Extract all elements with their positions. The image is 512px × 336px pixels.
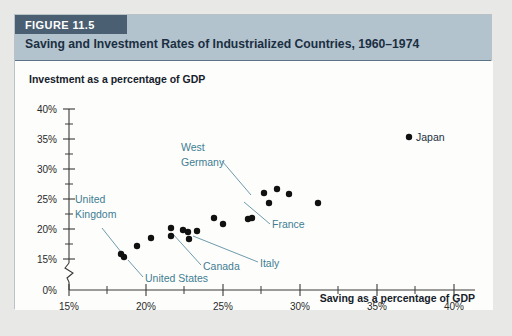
y-tick-label-20: 20% <box>37 224 57 235</box>
figure-number-badge: FIGURE 11.5 <box>15 15 127 34</box>
figure-header-band: FIGURE 11.5 Saving and Investment Rates … <box>15 15 491 61</box>
data-point <box>261 190 267 196</box>
data-point <box>168 225 174 231</box>
x-axis-title-text: Saving as a percentage of GDP <box>320 292 475 304</box>
data-point <box>148 235 154 241</box>
leader-line-west-germany <box>222 161 251 195</box>
leader-line-united-states <box>128 260 143 277</box>
data-point <box>194 228 200 234</box>
label-japan: Japan <box>416 131 445 143</box>
chart-plot-region: Investment as a percentage of GDP 4 <box>15 61 493 310</box>
data-point <box>185 229 191 235</box>
y-axis-break-symbol <box>65 263 73 282</box>
y-tick-label-30: 30% <box>37 164 57 175</box>
data-point <box>121 254 127 260</box>
data-point <box>168 233 174 239</box>
label-west-germany-line1: West <box>181 141 205 153</box>
figure-card: FIGURE 11.5 Saving and Investment Rates … <box>14 14 492 309</box>
figure-number-label: FIGURE 11.5 <box>25 19 95 31</box>
data-point <box>220 221 226 227</box>
label-united-kingdom-line1: United <box>75 193 106 205</box>
data-point <box>211 215 217 221</box>
y-axis-title: Investment as a percentage of GDP <box>29 73 205 85</box>
label-united-states: United States <box>145 272 208 284</box>
label-west-germany-line2: Germany <box>181 156 225 168</box>
data-point <box>134 243 140 249</box>
scatter-chart: Investment as a percentage of GDP 4 <box>15 61 493 310</box>
label-canada: Canada <box>203 260 240 272</box>
y-tick-label-40: 40% <box>37 104 57 115</box>
figure-title: Saving and Investment Rates of Industria… <box>25 37 465 51</box>
data-point <box>286 191 292 197</box>
data-point-japan <box>406 134 412 140</box>
label-united-kingdom-line2: Kingdom <box>75 208 117 220</box>
data-point <box>315 200 321 206</box>
leader-line-italy <box>193 236 258 262</box>
y-tick-label-25: 25% <box>37 194 57 205</box>
data-point <box>249 215 255 221</box>
data-point <box>186 236 192 242</box>
y-tick-label-15: 15% <box>37 254 57 265</box>
label-france: France <box>272 218 305 230</box>
label-italy: Italy <box>260 257 280 269</box>
data-point <box>266 200 272 206</box>
y-tick-label-35: 35% <box>37 134 57 145</box>
data-point <box>274 186 280 192</box>
